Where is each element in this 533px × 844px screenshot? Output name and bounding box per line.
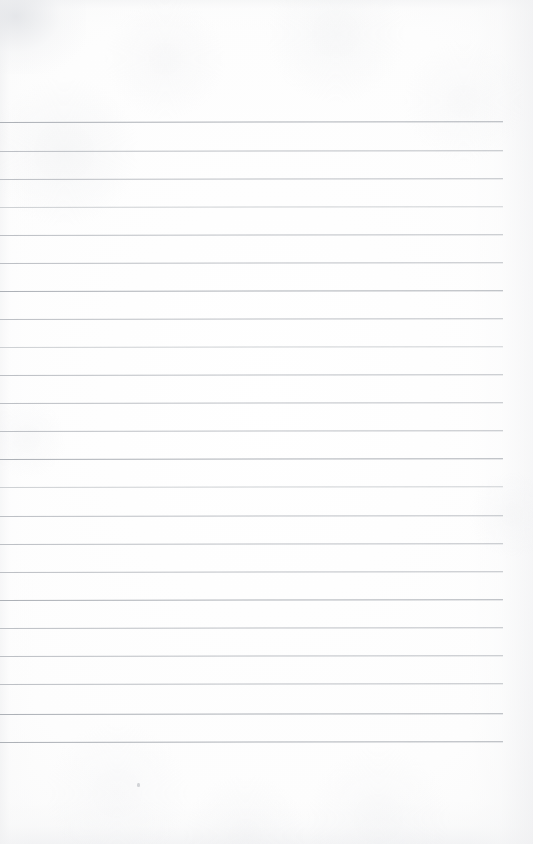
ruled-line bbox=[0, 346, 503, 348]
ruled-line bbox=[0, 178, 503, 180]
ruled-line bbox=[0, 515, 503, 517]
ruled-line bbox=[0, 627, 503, 629]
ruled-line bbox=[0, 683, 503, 685]
scan-speck bbox=[137, 783, 140, 787]
ruled-line bbox=[0, 543, 503, 545]
ruled-line bbox=[0, 655, 503, 657]
ruled-line bbox=[0, 402, 503, 404]
ruled-line bbox=[0, 599, 503, 601]
ruled-line bbox=[0, 458, 503, 460]
ruled-line bbox=[0, 206, 503, 208]
ruled-line bbox=[0, 374, 503, 376]
ruled-line bbox=[0, 318, 503, 320]
paper-grain-texture bbox=[0, 0, 533, 844]
ruled-line bbox=[0, 741, 503, 743]
ruled-line bbox=[0, 713, 503, 715]
ruled-line bbox=[0, 571, 503, 573]
ruled-line bbox=[0, 234, 503, 236]
ruled-line bbox=[0, 121, 503, 123]
ruled-line bbox=[0, 486, 503, 488]
ruled-lines-group bbox=[0, 0, 533, 844]
scan-corner-shadow bbox=[0, 0, 86, 74]
ruled-line bbox=[0, 150, 503, 152]
scanned-notebook-page bbox=[0, 0, 533, 844]
ruled-line bbox=[0, 290, 503, 292]
ruled-line bbox=[0, 430, 503, 432]
ruled-line bbox=[0, 262, 503, 264]
